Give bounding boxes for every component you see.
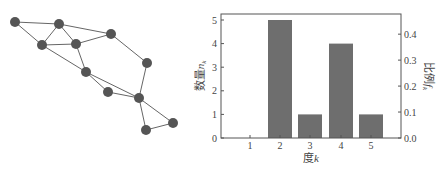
bar-degree-5 (359, 114, 383, 138)
y-right-tick-label: 0.1 (404, 107, 417, 118)
x-tick-label: 1 (248, 140, 253, 151)
x-tick-label: 5 (369, 140, 374, 151)
y-axis-right-label: 比例fk (421, 62, 436, 91)
y-tick-label: 3 (212, 62, 217, 73)
x-tick-label: 3 (308, 140, 313, 151)
y-tick-label: 1 (212, 109, 217, 120)
y-tick-label: 4 (212, 38, 217, 49)
y-axis-left-label: 数量nk (194, 60, 208, 92)
y-right-tick-label: 0.3 (404, 55, 417, 66)
x-axis-ticks: 12345 (248, 135, 374, 151)
x-tick-label: 2 (278, 140, 283, 151)
x-axis-label: 度k (303, 151, 320, 165)
y-right-tick-label: 0.2 (404, 81, 417, 92)
y-axis-left-ticks: 012345 (212, 15, 224, 144)
y-right-tick-label: 0.0 (404, 133, 417, 144)
y-tick-label: 5 (212, 15, 217, 26)
y-right-tick-label: 0.4 (404, 29, 417, 40)
y-tick-label: 2 (212, 85, 217, 96)
bar-degree-4 (329, 44, 353, 138)
x-tick-label: 4 (339, 140, 344, 151)
bar-degree-2 (268, 20, 292, 138)
bars (268, 20, 383, 138)
degree-distribution-chart: 12345 012345 0.00.10.20.30.4 度k 数量nk 比例f… (0, 0, 437, 173)
y-tick-label: 0 (212, 133, 217, 144)
bar-degree-3 (298, 114, 322, 138)
